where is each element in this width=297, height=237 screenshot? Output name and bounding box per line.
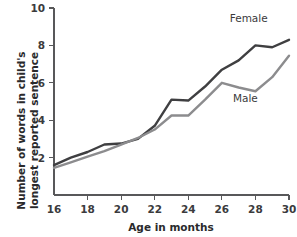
x-tick-label-26: 26	[215, 203, 230, 215]
x-axis-title: Age in months	[128, 221, 214, 233]
x-tick-label-18: 18	[80, 203, 95, 215]
x-tick-label-24: 24	[181, 203, 196, 215]
x-axis-ticks: 1618202224262830	[47, 195, 297, 215]
y-tick-label-2: 2	[38, 152, 45, 164]
series-label-female: Female	[230, 12, 268, 24]
x-tick-label-28: 28	[248, 203, 263, 215]
x-tick-label-22: 22	[147, 203, 162, 215]
x-tick-label-30: 30	[282, 203, 297, 215]
y-tick-label-8: 8	[38, 39, 45, 51]
series-lines	[54, 40, 289, 168]
y-axis-ticks: 246810	[30, 2, 54, 164]
y-tick-label-4: 4	[38, 114, 45, 126]
chart-container: 246810 1618202224262830 FemaleMale Age i…	[0, 0, 297, 237]
line-chart: 246810 1618202224262830 FemaleMale Age i…	[0, 0, 297, 237]
series-label-male: Male	[233, 92, 258, 104]
x-tick-label-16: 16	[47, 203, 62, 215]
x-tick-label-20: 20	[114, 203, 129, 215]
y-tick-label-10: 10	[30, 2, 45, 14]
y-tick-label-6: 6	[38, 77, 45, 89]
